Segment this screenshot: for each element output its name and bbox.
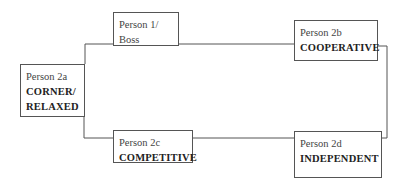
node-name: Person 2b xyxy=(300,25,377,40)
node-trait: Boss xyxy=(119,32,178,47)
node-trait: COMPETITIVE xyxy=(119,150,192,165)
node-person-2d: Person 2d INDEPENDENT xyxy=(294,131,382,178)
node-person-1-boss: Person 1/ Boss xyxy=(113,12,179,46)
node-person-2b: Person 2b COOPERATIVE xyxy=(294,20,378,61)
node-trait: RELAXED xyxy=(26,99,84,114)
node-name: Person 1/ xyxy=(119,17,178,32)
node-person-2a: Person 2a CORNER/ RELAXED xyxy=(20,64,85,117)
node-trait: CORNER/ xyxy=(26,84,84,99)
node-name: Person 2c xyxy=(119,135,192,150)
node-name: Person 2d xyxy=(300,136,381,151)
node-trait: INDEPENDENT xyxy=(300,151,381,166)
node-name: Person 2a xyxy=(26,69,84,84)
node-person-2c: Person 2c COMPETITIVE xyxy=(113,130,193,163)
node-trait: COOPERATIVE xyxy=(300,40,377,55)
